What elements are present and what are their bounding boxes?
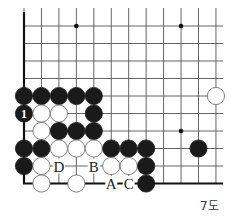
svg-text:B: B	[89, 159, 99, 175]
label-a: A	[105, 176, 117, 192]
svg-text:D: D	[53, 159, 64, 175]
label-b: B	[88, 159, 100, 175]
black-stone	[50, 87, 67, 104]
svg-text:A: A	[106, 176, 117, 192]
black-stone	[33, 140, 50, 157]
black-stone	[15, 140, 32, 157]
black-stone	[15, 87, 32, 104]
white-stone	[33, 122, 50, 139]
label-c: C	[123, 176, 135, 192]
black-stone	[68, 122, 85, 139]
star-point	[179, 24, 184, 29]
black-stone	[138, 175, 155, 192]
black-stone	[138, 140, 155, 157]
black-stone	[85, 122, 102, 139]
black-stone	[50, 122, 67, 139]
white-stone	[85, 140, 102, 157]
black-stone	[138, 157, 155, 174]
stones: 1	[15, 87, 224, 192]
white-stone	[50, 105, 67, 122]
white-stone	[33, 105, 50, 122]
black-stone	[190, 140, 207, 157]
black-stone	[15, 157, 32, 174]
label-d: D	[53, 159, 65, 175]
black-stone	[85, 87, 102, 104]
black-stone	[85, 105, 102, 122]
black-stone	[103, 140, 120, 157]
stone-number: 1	[21, 107, 27, 121]
svg-text:C: C	[124, 176, 134, 192]
star-point	[179, 129, 184, 134]
black-stone: 1	[15, 105, 32, 122]
star-point	[74, 24, 79, 29]
white-stone	[68, 140, 85, 157]
white-stone	[33, 175, 50, 192]
white-stone	[103, 157, 120, 174]
go-board: 1 DBAC	[0, 0, 244, 219]
black-stone	[120, 140, 137, 157]
black-stone	[33, 87, 50, 104]
white-stone	[68, 175, 85, 192]
white-stone	[207, 87, 224, 104]
white-stone	[50, 140, 67, 157]
black-stone	[68, 87, 85, 104]
diagram-caption: 7도	[200, 196, 219, 213]
white-stone	[120, 157, 137, 174]
white-stone	[33, 157, 50, 174]
